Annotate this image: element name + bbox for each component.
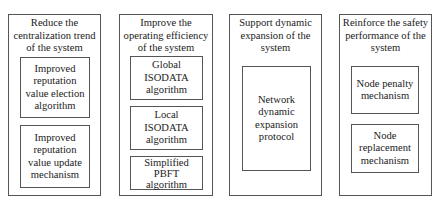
box-simplified-pbft: Simplified PBFT algorithm: [130, 156, 203, 190]
column-title: Support dynamic expansion of the system: [230, 17, 321, 55]
box-local-isodata: Local ISODATA algorithm: [130, 106, 203, 150]
box-reputation-update: Improved reputation value update mechani…: [20, 125, 90, 188]
box-global-isodata: Global ISODATA algorithm: [130, 56, 203, 100]
column-title: Reinforce the safety performance of the …: [340, 17, 431, 55]
box-reputation-election: Improved reputation value election algor…: [20, 57, 90, 118]
column-title: Reduce the centralization trend of the s…: [9, 17, 100, 55]
box-network-expansion-protocol: Network dynamic expansion protocol: [242, 66, 311, 171]
box-node-penalty: Node penalty mechanism: [351, 66, 419, 114]
box-node-replacement: Node replacement mechanism: [351, 124, 419, 173]
column-title: Improve the operating efficiency of the …: [120, 17, 212, 55]
